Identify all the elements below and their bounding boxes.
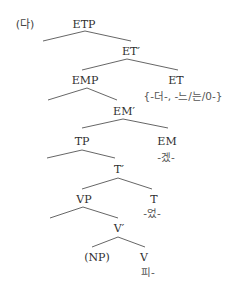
node-etp: ETP [73, 19, 96, 30]
tree-branch [47, 150, 82, 158]
tree-branch [82, 178, 118, 189]
tree-branch [50, 207, 83, 218]
syntax-tree-diagram: (다) ETP ET′ EMP ET {-더-, -느/는/0-} EM′ TP… [0, 0, 241, 290]
node-np: (NP) [84, 252, 110, 263]
tree-branch [87, 88, 117, 100]
example-label: (다) [16, 19, 35, 30]
tree-branch [43, 31, 85, 41]
node-t: T [150, 194, 157, 205]
et-morphemes: {-더-, -느/는/0-} [144, 91, 223, 102]
node-v: V [140, 252, 148, 263]
tree-branch [127, 59, 178, 70]
v-morpheme: 피- [141, 267, 155, 278]
node-tp: TP [75, 136, 90, 147]
tree-branch [83, 207, 118, 218]
node-em: EM [157, 136, 176, 147]
tree-branch [82, 119, 123, 128]
tree-branch [82, 150, 115, 158]
node-vp: VP [76, 194, 91, 205]
tree-branches [0, 0, 241, 290]
tree-branch [48, 88, 87, 100]
node-et-bar: ET′ [122, 46, 140, 57]
tree-branch [118, 237, 145, 247]
tree-branch [123, 119, 168, 128]
node-v-bar: V′ [114, 223, 124, 234]
tree-branch [118, 178, 152, 189]
tree-branch [82, 59, 127, 70]
em-morpheme: -겠- [157, 152, 175, 163]
tree-branch [85, 31, 131, 41]
node-em-bar: EM′ [113, 106, 135, 117]
node-t-bar: T′ [114, 164, 124, 175]
t-morpheme: -었- [143, 208, 161, 219]
tree-branch [92, 237, 118, 247]
node-et: ET [168, 75, 183, 86]
node-emp: EMP [72, 75, 99, 86]
